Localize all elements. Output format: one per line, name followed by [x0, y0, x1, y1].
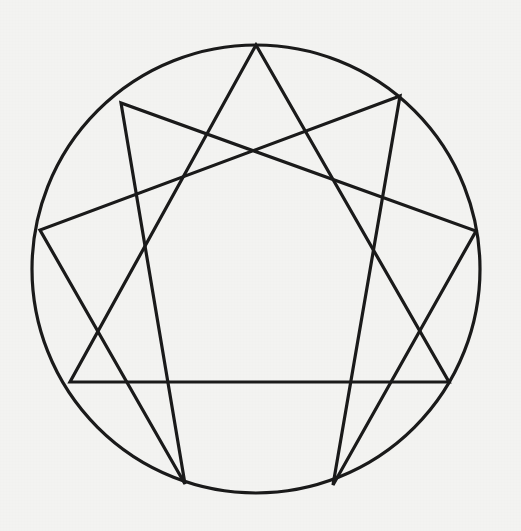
enneagram-drawing — [0, 0, 521, 531]
inner-triangle — [70, 45, 449, 382]
enneagram-figure — [0, 0, 521, 531]
hexad-figure — [40, 96, 476, 485]
outer-circle — [32, 45, 480, 493]
enneagram-strokes — [32, 45, 480, 493]
